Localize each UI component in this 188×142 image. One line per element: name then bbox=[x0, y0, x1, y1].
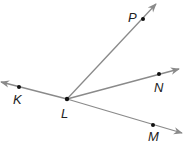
point-K bbox=[17, 85, 21, 89]
label-N: N bbox=[154, 80, 164, 95]
label-M: M bbox=[148, 129, 159, 142]
label-K: K bbox=[13, 92, 23, 107]
ray-LK bbox=[1, 82, 67, 99]
point-L bbox=[65, 97, 69, 101]
ray-LM bbox=[67, 99, 182, 133]
geometry-diagram: K L P N M bbox=[0, 0, 188, 142]
point-P bbox=[141, 17, 145, 21]
label-P: P bbox=[128, 10, 137, 25]
point-N bbox=[157, 72, 161, 76]
point-M bbox=[151, 123, 155, 127]
label-L: L bbox=[61, 106, 68, 121]
